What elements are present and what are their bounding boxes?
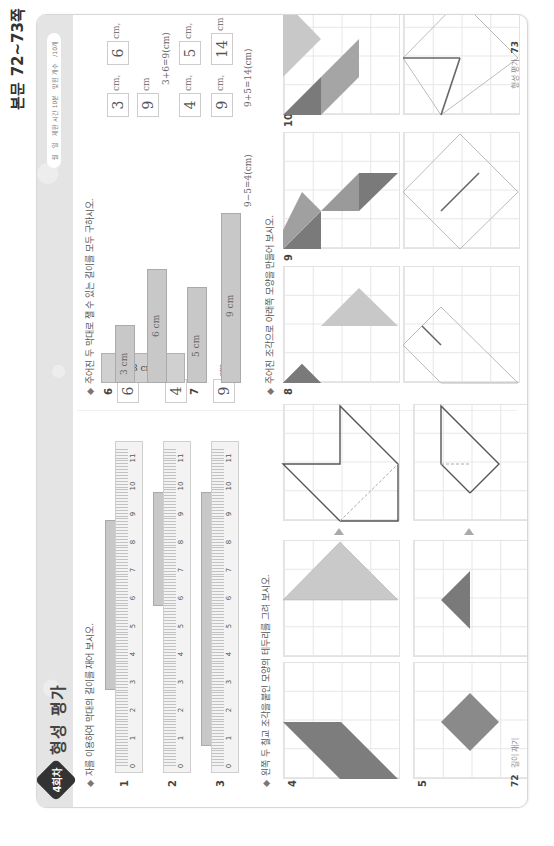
ruler-tick-label: 5 [225, 624, 233, 628]
stick-label: 6 cm [151, 315, 161, 337]
answer-box[interactable]: 6 [107, 41, 129, 65]
ruler-tick-label: 10 [177, 482, 185, 491]
problem-number: 1 [119, 780, 130, 787]
ruler-tick-label: 8 [129, 540, 137, 544]
triangle-piece-icon [283, 542, 398, 657]
stick-bar: 3 cm [101, 353, 185, 383]
parallelogram-piece-icon [283, 664, 398, 779]
unit-label: cm, [183, 75, 193, 91]
ruler-tick-label: 2 [225, 708, 233, 712]
ruler-tick-label: 0 [177, 764, 185, 768]
status-day: 일 [50, 142, 59, 148]
ruler-tick-label: 2 [177, 708, 185, 712]
answer-box[interactable]: 9 [211, 93, 233, 117]
section1-instruction: ◆자를 이용하여 막대의 길이를 재어 보시오. [83, 623, 96, 787]
ruler: 01234567891011 [211, 441, 239, 773]
ruler-tick-label: 0 [129, 764, 137, 768]
ruler-tick-label: 6 [225, 596, 233, 600]
ruler: 01234567891011 [115, 441, 143, 773]
ruler-ticks [116, 448, 128, 766]
problem-number: 5 [417, 780, 428, 787]
section3-instruction-text: 주어진 두 막대로 잴 수 있는 길이를 모두 구하시오. [85, 198, 95, 384]
unit-label: cm, [111, 75, 121, 91]
unit-label: cm [215, 17, 225, 31]
ruler-tick-label: 3 [177, 680, 185, 684]
stick-label: 9 cm [225, 295, 235, 317]
ruler-tick-label: 4 [177, 652, 185, 656]
unit-label: cm [141, 77, 151, 91]
ruler-tick-label: 7 [129, 568, 137, 572]
status-month: 월 [50, 154, 59, 160]
unit-label: cm, [111, 23, 121, 39]
ruler-tick-label: 4 [129, 652, 137, 656]
ruler-tick-label: 11 [225, 454, 233, 463]
answer-box[interactable]: 5 [179, 41, 201, 65]
outline-answer-icon [413, 406, 528, 521]
ruler-ticks [164, 448, 176, 766]
small-triangle-piece-icon [413, 542, 528, 657]
problem-number: 4 [287, 780, 298, 787]
worksheet: 4회차 형성 평가 월 일 제한 시간 10분 맞힌 개수 /10개 ◆자를 이… [36, 14, 528, 808]
worksheet-stage: 본문 72~73쪽 4회차 형성 평가 월 일 제한 시간 10분 맞힌 개수 … [0, 0, 554, 846]
status-correct-count: /10개 [50, 41, 59, 57]
arrow-right-icon [334, 528, 344, 535]
diamond-bullet-icon: ◆ [85, 780, 95, 787]
footer-right-text: 형성 평가 [511, 59, 520, 90]
ruler-tick-label: 7 [177, 568, 185, 572]
session-badge: 4회차 [41, 765, 71, 795]
page-title: 형성 평가 [45, 684, 69, 755]
ruler-tick-label: 9 [225, 512, 233, 516]
page-number-right: 73 [510, 41, 520, 54]
ruler-tick-label: 4 [225, 652, 233, 656]
page-number-left: 72 [510, 774, 520, 787]
ruler-tick-label: 1 [129, 736, 137, 740]
header-bar: 4회차 형성 평가 월 일 제한 시간 10분 맞힌 개수 /10개 [37, 15, 73, 807]
ruler-tick-label: 6 [177, 596, 185, 600]
answer-box[interactable]: 4 [179, 93, 201, 117]
problem-number: 9 [283, 254, 294, 261]
ruler-tick-label: 1 [177, 736, 185, 740]
ruler-tick-label: 1 [225, 736, 233, 740]
ruler-tick-label: 0 [225, 764, 233, 768]
ruler-tick-label: 11 [177, 454, 185, 463]
status-pill: 월 일 제한 시간 10분 맞힌 개수 /10개 [47, 33, 61, 168]
diamond-bullet-icon: ◆ [85, 388, 95, 395]
work-expression: 3+6=9(cm) [161, 32, 171, 85]
tangram-pieces-icon [283, 14, 398, 115]
problem-number: 10 [283, 113, 294, 127]
ruler-tick-label: 8 [225, 540, 233, 544]
work-expression: 9+5=14(cm) [243, 48, 253, 107]
ruler-tick-label: 9 [129, 512, 137, 516]
ruler-tick-label: 3 [129, 680, 137, 684]
problem-number: 2 [167, 780, 178, 787]
stick-label: 5 cm [191, 335, 201, 357]
stick-label: 3 cm [119, 353, 129, 375]
ruler-tick-label: 9 [177, 512, 185, 516]
footer-left: 72길이 재기 [509, 738, 520, 787]
ruler-tick-label: 11 [129, 454, 137, 463]
ruler-ticks [212, 448, 224, 766]
ruler-tick-label: 3 [225, 680, 233, 684]
ruler-tick-label: 7 [225, 568, 233, 572]
ruler-tick-label: 8 [177, 540, 185, 544]
ruler-tick-label: 5 [129, 624, 137, 628]
work-expression: 9−5=4(cm) [243, 154, 253, 207]
diamond-bullet-icon: ◆ [265, 388, 275, 395]
tangram-pieces-icon [283, 268, 398, 383]
answer-box[interactable]: 9 [137, 93, 159, 117]
outline-answer-icon [403, 14, 518, 115]
status-correct-label: 맞힌 개수 [50, 63, 59, 89]
footer-left-text: 길이 재기 [511, 738, 520, 769]
section2-instruction: ◆왼쪽 두 칠교 조각을 붙인 모양의 테두리를 그려 보시오. [259, 574, 272, 787]
problem-number: 7 [189, 388, 200, 395]
ruler-tick-label: 6 [129, 596, 137, 600]
answer-box[interactable]: 3 [107, 93, 129, 117]
diamond-bullet-icon: ◆ [261, 780, 271, 787]
ruler-tick-label: 2 [129, 708, 137, 712]
footer-right: 형성 평가 73 [509, 35, 520, 89]
status-time-limit: 제한 시간 10분 [50, 95, 59, 136]
outline-answer-icon [283, 406, 398, 521]
ruler-tick-label: 10 [225, 482, 233, 491]
arrow-right-icon [464, 528, 474, 535]
answer-box[interactable]: 14 [211, 33, 233, 65]
